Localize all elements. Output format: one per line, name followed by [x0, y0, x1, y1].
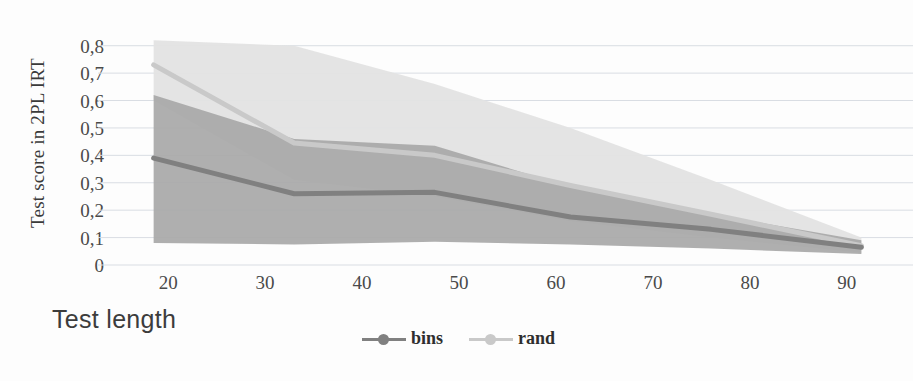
legend-label: rand: [518, 328, 555, 349]
x-tick-label: 90: [837, 272, 856, 295]
plot-area: [110, 32, 905, 265]
x-tick-label: 70: [643, 272, 662, 295]
legend-item-bins[interactable]: bins: [362, 328, 443, 349]
legend-label: bins: [411, 328, 443, 349]
x-tick-label: 40: [353, 272, 372, 295]
legend-marker-icon: [362, 333, 406, 345]
x-tick-label: 80: [740, 272, 759, 295]
chart-plot-svg: [110, 32, 905, 265]
y-tick-label: 0,8: [52, 36, 104, 55]
legend-item-rand[interactable]: rand: [469, 328, 555, 349]
x-axis-tick-labels: 2030405060708090: [0, 272, 913, 302]
legend-dot-icon: [485, 334, 496, 345]
y-tick-label: 0,3: [52, 173, 104, 192]
legend-dot-icon: [378, 334, 389, 345]
x-tick-label: 50: [450, 272, 469, 295]
chart-legend: binsrand: [362, 328, 555, 349]
y-tick-label: 0,4: [52, 146, 104, 165]
x-axis-title: Test length: [52, 305, 176, 334]
y-tick-label: 0,5: [52, 118, 104, 137]
y-axis-title: Test score in 2PL IRT: [27, 13, 49, 273]
y-tick-label: 0,7: [52, 64, 104, 83]
y-tick-label: 0,1: [52, 228, 104, 247]
legend-marker-icon: [469, 333, 513, 345]
x-tick-label: 20: [159, 272, 178, 295]
chart-canvas: Test score in 2PL IRT 00,10,20,30,40,50,…: [0, 0, 913, 381]
x-tick-label: 60: [546, 272, 565, 295]
y-tick-label: 0,6: [52, 91, 104, 110]
y-tick-label: 0,2: [52, 201, 104, 220]
x-tick-label: 30: [256, 272, 275, 295]
